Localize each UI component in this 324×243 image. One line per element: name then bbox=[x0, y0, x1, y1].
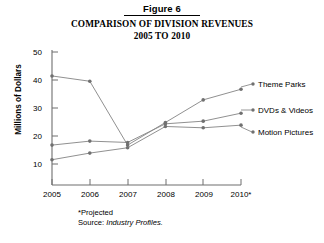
legend-leader-motion-pictures bbox=[241, 127, 252, 132]
figure-container: Figure 6 COMPARISON OF DIVISION REVENUES… bbox=[0, 0, 324, 243]
series-line bbox=[52, 113, 241, 145]
data-point bbox=[88, 139, 92, 143]
data-point bbox=[126, 146, 130, 150]
footnote-source: Source: Industry Profiles. bbox=[78, 218, 163, 227]
data-series-layer bbox=[50, 74, 243, 161]
data-point bbox=[201, 98, 205, 102]
legend-marker-motion-pictures bbox=[251, 130, 254, 133]
data-point bbox=[164, 125, 168, 129]
data-point bbox=[50, 74, 54, 78]
footnote-source-name: Industry Profiles. bbox=[106, 218, 163, 227]
data-point bbox=[50, 158, 54, 162]
legend-label-dvds-videos: DVDs & Videos bbox=[258, 106, 313, 115]
legend-leader-lines bbox=[241, 82, 255, 133]
data-point bbox=[50, 143, 54, 147]
data-point bbox=[201, 126, 205, 130]
legend-marker-dvds-videos bbox=[251, 108, 254, 111]
data-point bbox=[88, 151, 92, 155]
legend-leader-theme-parks bbox=[241, 84, 252, 87]
data-point bbox=[88, 79, 92, 83]
axes bbox=[52, 50, 241, 185]
data-point bbox=[239, 111, 243, 115]
data-point bbox=[239, 123, 243, 127]
series-theme-parks bbox=[50, 74, 243, 147]
footnote-projected: *Projected bbox=[78, 208, 113, 217]
data-point bbox=[239, 87, 243, 91]
legend-label-theme-parks: Theme Parks bbox=[258, 80, 306, 89]
legend-marker-theme-parks bbox=[251, 82, 254, 85]
footnote-source-prefix: Source: bbox=[78, 218, 106, 227]
data-point bbox=[201, 119, 205, 123]
chart-plot-area bbox=[0, 0, 324, 243]
series-dvds-videos bbox=[50, 111, 243, 147]
data-point bbox=[126, 141, 130, 145]
legend-label-motion-pictures: Motion Pictures bbox=[258, 128, 313, 137]
series-line bbox=[52, 76, 241, 145]
